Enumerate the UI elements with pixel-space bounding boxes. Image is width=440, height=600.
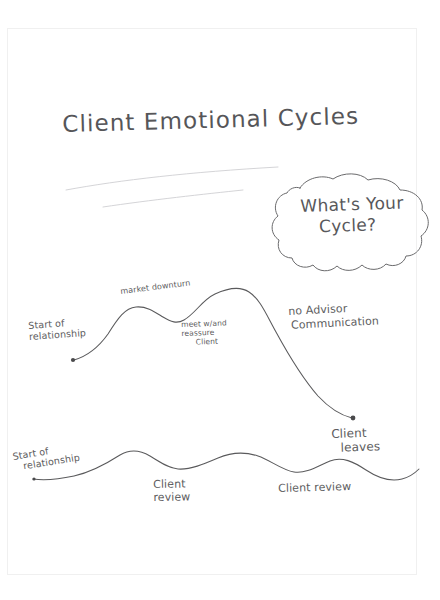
bottom-curve-path bbox=[33, 451, 419, 480]
review-1-line-2: review bbox=[153, 491, 190, 505]
label-client-leaves: Clientleaves bbox=[331, 425, 380, 455]
title-underline-upper bbox=[66, 167, 278, 190]
label-client-review-second: Client review bbox=[278, 481, 351, 495]
sketch-canvas: Client Emotional Cycles What's YourCycle… bbox=[0, 0, 440, 600]
label-meet-and-reassure-client: meet w/and reassureClient bbox=[181, 318, 228, 347]
label-client-review-first: Client review bbox=[153, 477, 190, 504]
bubble-line-1: What's Your bbox=[300, 192, 404, 216]
bottom-curve-group bbox=[32, 451, 419, 481]
client-leaves-line-1: Client bbox=[331, 426, 367, 441]
bottom-curve-start-dot bbox=[32, 477, 35, 480]
thought-bubble-text: What's YourCycle? bbox=[300, 192, 405, 238]
top-curve-start-dot bbox=[71, 358, 75, 362]
reassure-line-3: Client bbox=[196, 336, 228, 346]
label-no-advisor-communication: no AdvisorCommunication bbox=[288, 300, 379, 333]
title-underline-lower bbox=[103, 190, 243, 207]
bubble-line-2: Cycle? bbox=[319, 214, 405, 238]
top-curve-end-dot bbox=[351, 416, 356, 421]
client-leaves-line-2: leaves bbox=[340, 440, 380, 456]
label-top-start-of-relationship: Start of relationship bbox=[28, 317, 86, 342]
review-1-line-1: Client bbox=[153, 477, 186, 491]
no-comm-line-1: no Advisor bbox=[288, 302, 348, 318]
sketch-page: Client Emotional Cycles What's YourCycle… bbox=[0, 0, 440, 600]
title-underlines bbox=[66, 167, 278, 207]
